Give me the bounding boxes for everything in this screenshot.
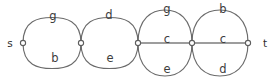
edge-label-e1: b xyxy=(51,51,58,65)
terminal-label-s: s xyxy=(7,37,12,49)
edge-label-e9: d xyxy=(219,62,226,76)
vertex-v0 xyxy=(20,40,25,45)
terminal-label-t: t xyxy=(263,37,267,49)
edge-label-e4: g xyxy=(163,2,170,16)
edge-label-e6: e xyxy=(163,62,170,76)
edge-label-e3: e xyxy=(106,51,113,65)
graph-diagram: gbdegcebcd st xyxy=(0,0,278,83)
edge-label-e2: d xyxy=(105,8,112,22)
edge-label-e0: g xyxy=(49,9,56,23)
edge-label-e8: c xyxy=(220,32,226,46)
vertex-v3 xyxy=(189,40,194,45)
graph-canvas: gbdegcebcd st xyxy=(0,0,278,83)
vertex-v2 xyxy=(135,40,140,45)
vertex-v4 xyxy=(245,40,250,45)
edge-label-e7: b xyxy=(219,2,226,16)
edge-label-e5: c xyxy=(164,32,170,46)
vertex-v1 xyxy=(78,40,83,45)
